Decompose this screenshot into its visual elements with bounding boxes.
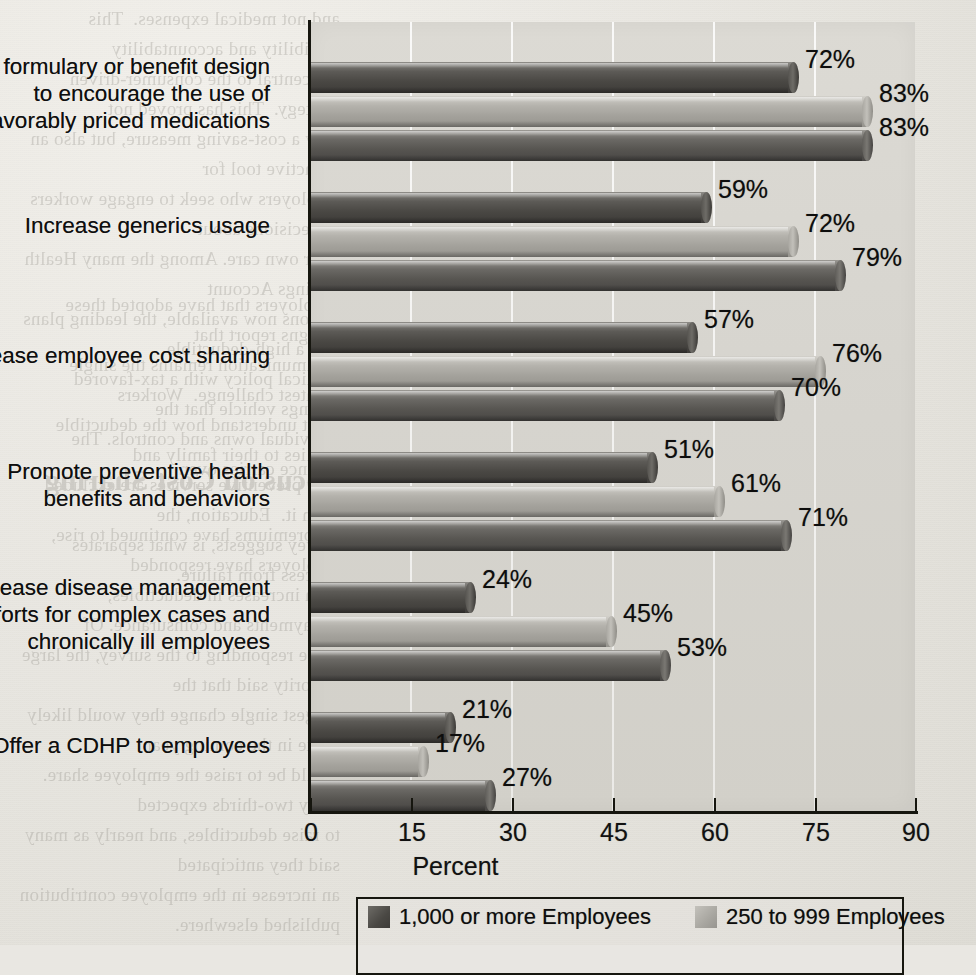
bar-g4-s0 xyxy=(310,582,471,613)
x-tick-75 xyxy=(815,798,817,811)
category-label-5: Offer a CDHP to employees xyxy=(0,732,270,759)
value-label-g2-s1: 76% xyxy=(832,339,882,368)
category-label-3: Promote preventive health benefits and b… xyxy=(0,458,270,512)
value-label-g1-s2: 79% xyxy=(852,243,902,272)
value-label-g3-s2: 71% xyxy=(798,503,848,532)
category-label-3-line2: benefits and behaviors xyxy=(0,485,270,512)
bar-g1-s2 xyxy=(310,260,841,291)
bar-g0-s0 xyxy=(310,62,794,93)
bar-g3-s2 xyxy=(310,520,787,551)
legend-label-1: 250 to 999 Employees xyxy=(726,904,945,930)
category-label-4-line2: efforts for complex cases and xyxy=(0,601,270,628)
value-label-g0-s1: 83% xyxy=(879,79,929,108)
x-tick-label-45: 45 xyxy=(600,818,628,847)
x-tick-label-75: 75 xyxy=(802,818,830,847)
value-label-g0-s0: 72% xyxy=(805,45,855,74)
category-label-0: Use formulary or benefit design to encou… xyxy=(0,53,270,134)
category-label-1: Increase generics usage xyxy=(0,212,270,239)
bar-g2-s0 xyxy=(310,322,693,353)
bar-g1-s1 xyxy=(310,226,794,257)
y-axis-line xyxy=(308,20,311,814)
bar-g1-s0 xyxy=(310,192,707,223)
category-label-4-line1: Increase disease management xyxy=(0,574,270,601)
x-tick-45 xyxy=(613,798,615,811)
bar-g0-s2 xyxy=(310,130,868,161)
legend-swatch-250-to-999-icon xyxy=(695,906,717,928)
x-axis-title: Percent xyxy=(0,852,976,881)
legend-row-0: 1,000 or more Employees 250 to 999 Emplo… xyxy=(358,899,902,935)
value-label-g5-s2: 27% xyxy=(502,763,552,792)
category-label-4-line3: chronically ill employees xyxy=(0,628,270,655)
x-axis-line xyxy=(308,811,918,814)
x-tick-0 xyxy=(310,798,312,811)
value-label-g4-s1: 45% xyxy=(623,599,673,628)
value-label-g3-s0: 51% xyxy=(664,435,714,464)
x-tick-label-0: 0 xyxy=(304,818,318,847)
bar-g2-s1 xyxy=(310,356,821,387)
value-label-g1-s0: 59% xyxy=(718,175,768,204)
legend-label-0: 1,000 or more Employees xyxy=(399,904,651,930)
bar-g2-s2 xyxy=(310,390,780,421)
category-label-0-line1: Use formulary or benefit design xyxy=(0,53,270,80)
value-label-g1-s1: 72% xyxy=(805,209,855,238)
legend-swatch-1000-or-more-icon xyxy=(368,906,390,928)
category-label-3-line1: Promote preventive health xyxy=(0,458,270,485)
category-label-2-line1: Increase employee cost sharing xyxy=(0,342,270,369)
category-label-5-line1: Offer a CDHP to employees xyxy=(0,732,270,759)
plot-area xyxy=(310,22,915,812)
value-label-g2-s2: 70% xyxy=(791,373,841,402)
bar-g4-s2 xyxy=(310,650,666,681)
bar-g3-s1 xyxy=(310,486,720,517)
x-tick-30 xyxy=(512,798,514,811)
category-label-1-line1: Increase generics usage xyxy=(0,212,270,239)
value-label-g0-s2: 83% xyxy=(879,113,929,142)
value-label-g2-s0: 57% xyxy=(704,305,754,334)
chart-legend: 1,000 or more Employees 250 to 999 Emplo… xyxy=(356,897,904,975)
x-tick-label-30: 30 xyxy=(499,818,527,847)
value-label-g5-s1: 17% xyxy=(435,729,485,758)
category-label-0-line3: favorably priced medications xyxy=(0,107,270,134)
value-label-g3-s1: 61% xyxy=(731,469,781,498)
value-label-g5-s0: 21% xyxy=(462,695,512,724)
bar-g5-s1 xyxy=(310,746,424,777)
bar-g5-s2 xyxy=(310,780,491,811)
value-label-g4-s2: 53% xyxy=(677,633,727,662)
x-tick-15 xyxy=(411,798,413,811)
bar-g4-s1 xyxy=(310,616,612,647)
category-label-0-line2: to encourage the use of xyxy=(0,80,270,107)
bar-g0-s1 xyxy=(310,96,868,127)
bar-g5-s0 xyxy=(310,712,451,743)
x-tick-label-90: 90 xyxy=(902,818,930,847)
value-label-g4-s0: 24% xyxy=(482,565,532,594)
x-tick-label-60: 60 xyxy=(701,818,729,847)
x-tick-60 xyxy=(714,798,716,811)
category-label-2: Increase employee cost sharing xyxy=(0,342,270,369)
bar-g3-s0 xyxy=(310,452,653,483)
category-label-4: Increase disease management efforts for … xyxy=(0,574,270,655)
x-axis-title-text: Percent xyxy=(412,852,498,881)
x-tick-label-15: 15 xyxy=(398,818,426,847)
x-tick-90 xyxy=(915,798,917,811)
